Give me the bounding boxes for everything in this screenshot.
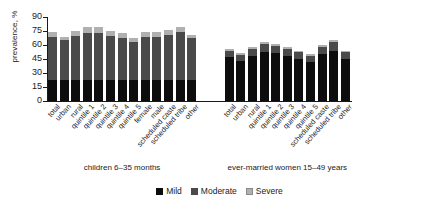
bar — [83, 27, 92, 101]
bar-segment-moderate — [176, 32, 185, 80]
y-axis-tick-labels: 0153045607590 — [18, 0, 42, 110]
legend-item: Mild — [156, 186, 182, 196]
bar-segment-moderate — [271, 46, 280, 53]
legend-label: Moderate — [201, 186, 237, 196]
legend-item: Severe — [246, 186, 283, 196]
y-axis-tick-label: 75 — [32, 26, 42, 35]
bar-segment-moderate — [329, 42, 338, 50]
bar-segment-moderate — [129, 42, 138, 80]
bar — [48, 32, 57, 101]
chart-legend: MildModerateSevere — [0, 186, 439, 196]
bar-segment-moderate — [48, 37, 57, 80]
group-caption: ever-married women 15–49 years — [197, 163, 377, 172]
y-axis-tick-label: 60 — [32, 40, 42, 49]
y-axis-tick-label: 90 — [32, 12, 42, 21]
bar-segment-moderate — [118, 38, 127, 80]
group-caption: children 6–35 months — [32, 163, 212, 172]
bar-segment-moderate — [187, 38, 196, 79]
y-axis-tick-label: 30 — [32, 68, 42, 77]
legend-label: Severe — [256, 186, 283, 196]
bar-segment-mild — [225, 57, 234, 101]
stacked-bar-chart: prevalence, % 0153045607590 totalurbanru… — [0, 0, 439, 210]
bar — [60, 37, 69, 101]
bar-segment-moderate — [152, 37, 161, 80]
bar-segment-mild — [48, 80, 57, 101]
bar-segment-moderate — [318, 47, 327, 54]
bar-segment-moderate — [248, 49, 257, 56]
bar-segment-moderate — [164, 35, 173, 80]
legend-label: Mild — [166, 186, 182, 196]
bar-segment-moderate — [283, 49, 292, 56]
y-axis-tick-label: 45 — [32, 54, 42, 63]
legend-swatch-moderate — [191, 188, 198, 195]
legend-item: Moderate — [191, 186, 237, 196]
bar — [225, 49, 234, 101]
legend-swatch-severe — [246, 188, 253, 195]
y-axis-tick-label: 0 — [37, 96, 42, 105]
bar-segment-moderate — [83, 33, 92, 80]
bar-segment-moderate — [106, 36, 115, 80]
bar-segment-moderate — [71, 36, 80, 80]
bar-segment-moderate — [94, 33, 103, 80]
bar-segment-moderate — [141, 37, 150, 80]
y-axis-tick-label: 15 — [32, 82, 42, 91]
legend-swatch-mild — [156, 188, 163, 195]
bar-segment-moderate — [260, 44, 269, 52]
bar-segment-moderate — [60, 40, 69, 79]
